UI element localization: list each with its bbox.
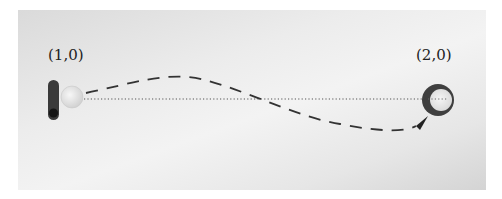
start-coordinate-label: (1,0): [48, 46, 84, 64]
arrowhead-icon: [416, 116, 428, 130]
target-ring-inner: [430, 89, 452, 111]
curved-trajectory-line: [86, 77, 416, 131]
end-coordinate-label: (2,0): [416, 46, 452, 64]
paddle-tip: [49, 109, 58, 118]
trajectory-diagram: [0, 0, 502, 199]
ball-shape: [61, 86, 83, 108]
